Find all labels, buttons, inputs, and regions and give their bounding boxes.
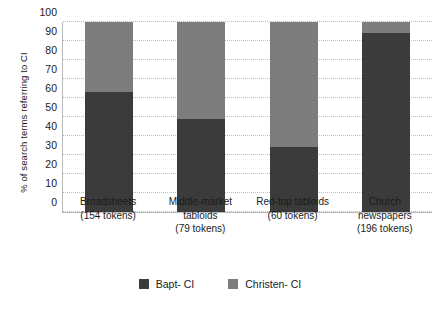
bar-group: [362, 22, 410, 212]
x-tick-label-line: newspapers: [339, 209, 431, 223]
x-tick-label-line: tabloids: [154, 209, 246, 223]
legend-label: Christen- CI: [245, 278, 301, 290]
bar-segment-christen-ci: [270, 22, 318, 147]
x-tick-label-line: Middle-market: [154, 195, 246, 209]
bar-group: [177, 22, 225, 212]
legend-swatch-icon: [228, 279, 238, 289]
x-tick-label-line: (196 tokens): [339, 222, 431, 236]
x-tick-label-line: (60 tokens): [247, 209, 339, 223]
bar-segment-christen-ci: [362, 22, 410, 33]
x-tick-label-line: Church: [339, 195, 431, 209]
y-tick-label-10: 10: [45, 177, 57, 188]
bar-stack: [362, 22, 410, 212]
y-tick-label-0: 0: [51, 196, 57, 207]
plot-area: 1009080706050403020100: [62, 22, 432, 213]
x-tick-label: Churchnewspapers(196 tokens): [339, 195, 431, 236]
bar-stack: [270, 22, 318, 212]
stacked-bar-chart: % of search terms referring to CI 100908…: [0, 0, 440, 311]
y-tick-label-80: 80: [45, 44, 57, 55]
y-tick-label-100: 100: [39, 6, 57, 17]
legend-item[interactable]: Christen- CI: [228, 278, 301, 290]
bar-stack: [177, 22, 225, 212]
x-tick-label: Red-top tabloids(60 tokens): [247, 195, 339, 222]
bars-container: [63, 22, 432, 212]
y-tick-label-70: 70: [45, 63, 57, 74]
legend-item[interactable]: Bapt- CI: [139, 278, 195, 290]
x-tick-label: Broadsheets(154 tokens): [62, 195, 154, 222]
bar-segment-christen-ci: [177, 22, 225, 119]
y-tick-label-90: 90: [45, 25, 57, 36]
y-tick-label-40: 40: [45, 120, 57, 131]
bar-group: [270, 22, 318, 212]
bar-segment-christen-ci: [85, 22, 133, 92]
chart-legend: Bapt- CIChristen- CI: [0, 278, 440, 290]
y-tick-label-50: 50: [45, 101, 57, 112]
bar-stack: [85, 22, 133, 212]
y-tick-label-30: 30: [45, 139, 57, 150]
legend-label: Bapt- CI: [156, 278, 195, 290]
y-axis-title: % of search terms referring to CI: [18, 23, 29, 223]
x-tick-label-line: Red-top tabloids: [247, 195, 339, 209]
x-tick-label-line: Broadsheets: [62, 195, 154, 209]
x-tick-label: Middle-markettabloids(79 tokens): [154, 195, 246, 236]
y-tick-label-60: 60: [45, 82, 57, 93]
bar-segment-bapt-ci: [362, 33, 410, 212]
y-tick-label-20: 20: [45, 158, 57, 169]
x-tick-label-line: (79 tokens): [154, 222, 246, 236]
x-tick-label-line: (154 tokens): [62, 209, 154, 223]
legend-swatch-icon: [139, 279, 149, 289]
bar-group: [85, 22, 133, 212]
